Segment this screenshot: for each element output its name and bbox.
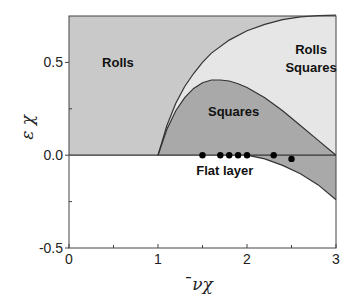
- x-tick-label: 2: [243, 251, 251, 267]
- x-tick-label: 3: [332, 251, 340, 267]
- y-tick-label: 0.0: [44, 147, 64, 163]
- data-point: [271, 152, 277, 158]
- region-label: Rolls: [295, 42, 327, 57]
- region-label: Squares: [285, 60, 336, 75]
- y-tick-label: 0.5: [44, 54, 64, 70]
- x-axis-label: ̄νχ: [185, 274, 214, 294]
- x-tick-label: 0: [65, 251, 73, 267]
- region-label: Rolls: [102, 55, 134, 70]
- y-tick-label: -0.5: [39, 240, 63, 256]
- data-point: [235, 152, 241, 158]
- region-label: Squares: [208, 104, 259, 119]
- region-label: Flat layer: [196, 163, 253, 178]
- data-point: [217, 152, 223, 158]
- data-point: [288, 156, 294, 162]
- phase-diagram-chart: 0123-0.50.00.5̄νχε χ RollsRollsSquaresSq…: [0, 0, 356, 300]
- data-point: [226, 152, 232, 158]
- x-tick-label: 1: [154, 251, 162, 267]
- data-point: [199, 152, 205, 158]
- data-point: [244, 152, 250, 158]
- y-axis-label: ε χ: [17, 113, 37, 140]
